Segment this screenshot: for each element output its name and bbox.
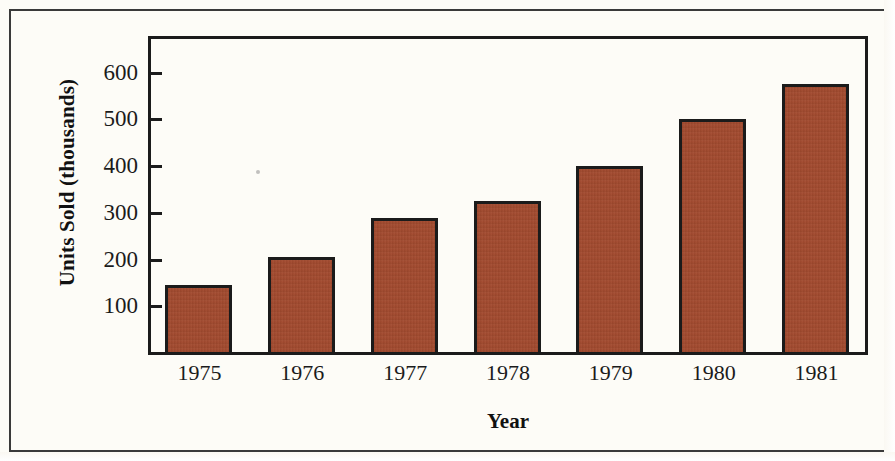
bar-fill [374,221,435,352]
bar-fill [271,260,332,352]
scan-speck [256,170,260,174]
y-axis-tick-label: 600 [76,61,138,84]
bar [268,257,335,355]
y-axis-tick-label: 500 [76,107,138,130]
y-axis-tick-label: 100 [76,294,138,317]
chart-page: 100200300400500600 Units Sold (thousands… [0,0,895,461]
x-axis-tick-label: 1975 [149,362,249,384]
bar [165,285,232,355]
y-axis-tick [148,72,162,75]
bar-chart: 100200300400500600 Units Sold (thousands… [0,0,895,461]
x-axis-tick-label: 1976 [252,362,352,384]
y-axis-tick [148,165,162,168]
y-axis-tick-label: 200 [76,248,138,271]
y-axis-tick-label: 300 [76,201,138,224]
bar-fill [579,169,640,352]
y-axis-tick [148,305,162,308]
x-axis-title: Year [148,409,868,434]
paper-edge-right [884,0,895,461]
x-axis-tick-label: 1977 [355,362,455,384]
y-axis-title: Units Sold (thousands) [55,68,80,298]
x-axis-tick-label: 1981 [767,362,867,384]
bar [576,166,643,355]
bar [679,119,746,355]
x-axis-tick-label: 1978 [458,362,558,384]
y-axis-tick [148,212,162,215]
y-axis-tick-label: 400 [76,154,138,177]
bar-fill [477,204,538,352]
bar [782,84,849,355]
bar-fill [785,87,846,352]
y-axis-tick [148,118,162,121]
x-axis-tick-label: 1979 [561,362,661,384]
x-axis-tick-label: 1980 [664,362,764,384]
bar [371,218,438,355]
bar-fill [168,288,229,352]
bar [474,201,541,355]
bar-fill [682,122,743,352]
paper-edge-bottom [0,452,895,461]
y-axis-tick [148,259,162,262]
